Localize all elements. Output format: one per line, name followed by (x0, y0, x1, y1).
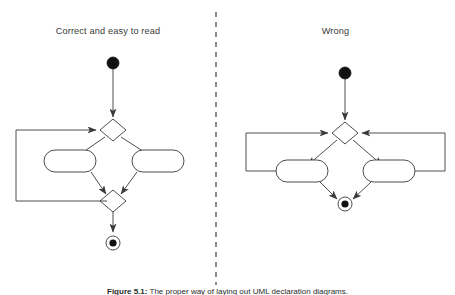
right-action-node-left (276, 160, 328, 182)
left-final-node-core (109, 239, 116, 246)
left-edge-action-right-to-merge (121, 172, 137, 194)
panel-left-graphics (16, 57, 184, 250)
figure-caption-label: Figure 5.1: (107, 287, 147, 295)
panel-right-graphics (246, 67, 445, 211)
figure-caption-text: The proper way of laying out UML declara… (150, 287, 348, 295)
right-initial-node (339, 67, 351, 79)
left-action-node-left (44, 150, 96, 172)
figure-caption: Figure 5.1: The proper way of laying out… (0, 286, 455, 295)
right-final-node-core (341, 200, 348, 207)
left-edge-action-left-to-merge (91, 172, 106, 194)
right-action-node-right (363, 160, 415, 182)
left-initial-node (107, 57, 119, 69)
right-edge-action-left-to-final (320, 182, 337, 199)
figure-root: Correct and easy to read Wrong (0, 0, 455, 295)
activity-diagram-canvas (0, 0, 455, 295)
left-action-node-right (132, 150, 184, 172)
right-edge-action-right-to-final (353, 182, 371, 199)
